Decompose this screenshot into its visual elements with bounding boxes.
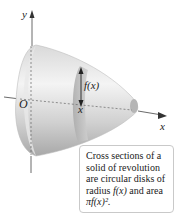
caption-line: are circular disks of (86, 173, 169, 185)
x-axis-arrow-icon (158, 112, 167, 119)
section-position-label: x (78, 104, 83, 115)
caption-line: radius f(x) and area (86, 185, 169, 197)
x-axis-label: x (160, 121, 165, 132)
caption-line: solid of revolution (86, 162, 169, 174)
y-axis-arrow-icon (30, 10, 35, 18)
caption-line: Cross sections of a (86, 150, 169, 162)
caption-box: Cross sections of a solid of revolution … (79, 145, 174, 213)
caption-text: and area (127, 185, 163, 196)
radius-label: f(x) (84, 80, 99, 91)
caption-math: f(x) (113, 185, 127, 196)
caption-math: πf(x)². (86, 196, 110, 207)
y-axis-label: y (22, 9, 27, 20)
caption-text: radius (86, 185, 113, 196)
caption-line: πf(x)². (86, 196, 169, 208)
origin-label: O (19, 98, 28, 110)
